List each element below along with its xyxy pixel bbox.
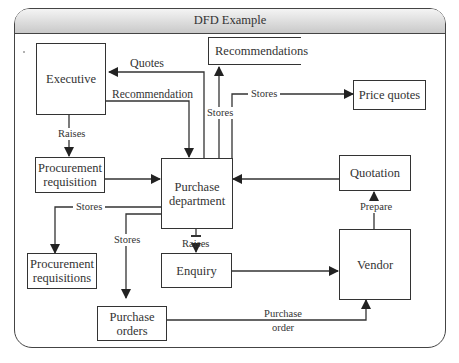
flow-label-recommendation: Recommendation (112, 88, 193, 100)
vendor-label: Vendor (357, 258, 393, 272)
process-purchase-department[interactable]: Purchase department (161, 158, 233, 229)
procurement-requisition-line2: requisition (43, 175, 96, 189)
procurement-requisition-line1: Procurement (38, 161, 102, 175)
procurement-requisitions-line2: requisitions (33, 271, 91, 285)
flow-label-stores-price-quotes: Stores (248, 88, 280, 100)
purchase-orders-line1: Purchase (109, 310, 154, 324)
process-executive[interactable]: Executive (36, 43, 106, 115)
purchase-department-line1: Purchase (174, 180, 219, 194)
process-quotation[interactable]: Quotation (339, 155, 411, 191)
enquiry-label: Enquiry (176, 264, 216, 278)
store-recommendations[interactable]: Recommendations (208, 37, 301, 65)
entity-vendor[interactable]: Vendor (339, 229, 411, 300)
flow-label-stores-orders: Stores (112, 234, 142, 246)
purchase-orders-line2: orders (116, 324, 147, 338)
store-purchase-orders[interactable]: Purchase orders (97, 306, 167, 341)
flow-label-purchase-order: Purchase order (255, 308, 311, 334)
flow-label-stores-requisitions: Stores (73, 201, 105, 213)
store-procurement-requisitions[interactable]: Procurement requisitions (27, 253, 97, 289)
executive-label: Executive (46, 72, 96, 86)
process-procurement-requisition[interactable]: Procurement requisition (35, 157, 105, 193)
quotation-label: Quotation (350, 166, 400, 180)
procurement-requisitions-line1: Procurement (30, 257, 94, 271)
process-enquiry[interactable]: Enquiry (161, 253, 232, 288)
flow-label-raises-enquiry: Raises (182, 238, 209, 250)
purchase-order-line1: Purchase (255, 308, 311, 320)
flow-label-prepare: Prepare (359, 201, 393, 213)
store-price-quotes[interactable]: Price quotes (353, 80, 426, 110)
flow-label-quotes: Quotes (130, 57, 164, 69)
purchase-department-line2: department (169, 194, 225, 208)
flow-label-stores-recommendations: Stores (207, 107, 233, 119)
recommendations-label: Recommendations (215, 44, 308, 59)
purchase-order-line2: order (255, 322, 311, 334)
price-quotes-label: Price quotes (359, 88, 420, 102)
flow-label-raises-exec: Raises (58, 128, 85, 140)
